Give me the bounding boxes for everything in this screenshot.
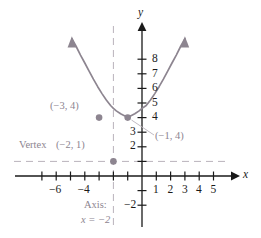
parabola-figure: 8 7 6 5 4 3 2 −2 −6 −4 1 2 3 4 5 x y (−3…: [0, 0, 261, 238]
vertex-text-label: Vertex: [19, 140, 46, 151]
x-tick-label-5: 5: [211, 184, 217, 196]
y-tick-label-8: 8: [152, 53, 158, 65]
x-tick-label-1: 1: [153, 184, 159, 196]
vertex-coordinates-label: (−2, 1): [56, 140, 85, 151]
x-tick-label-3: 3: [182, 184, 188, 196]
parabola-right-arrowhead: [181, 36, 190, 47]
y-tick-label-7: 7: [152, 68, 158, 80]
point-marker-neg1-4: [124, 114, 131, 121]
parabola-curve: [72, 39, 185, 117]
y-axis-name-label: y: [138, 7, 143, 19]
axis-note-title: Axis:: [84, 200, 107, 211]
x-axis-name-label: x: [243, 169, 248, 181]
x-tick-label-neg6: −6: [49, 184, 61, 196]
point-marker-vertex: [110, 158, 117, 165]
x-tick-label-2: 2: [168, 184, 174, 196]
parabola-left-arrowhead: [68, 36, 77, 47]
axis-note-equation: x = −2: [81, 215, 110, 226]
y-axis-arrowhead: [138, 22, 147, 31]
y-tick-label-4: 4: [152, 111, 158, 123]
x-tick-label-neg4: −4: [78, 184, 90, 196]
point-label-neg3-4: (−3, 4): [50, 101, 79, 112]
x-axis-arrowhead: [231, 172, 240, 181]
y-tick-label-neg2: −2: [124, 199, 136, 211]
y-tick-label-2: 2: [130, 140, 136, 152]
y-tick-label-6: 6: [152, 82, 158, 94]
point-label-neg1-4: (−1, 4): [155, 131, 184, 142]
x-tick-label-4: 4: [196, 184, 202, 196]
y-tick-label-3: 3: [130, 126, 136, 138]
point-marker-neg3-4: [96, 114, 103, 121]
y-tick-label-5: 5: [152, 97, 158, 109]
